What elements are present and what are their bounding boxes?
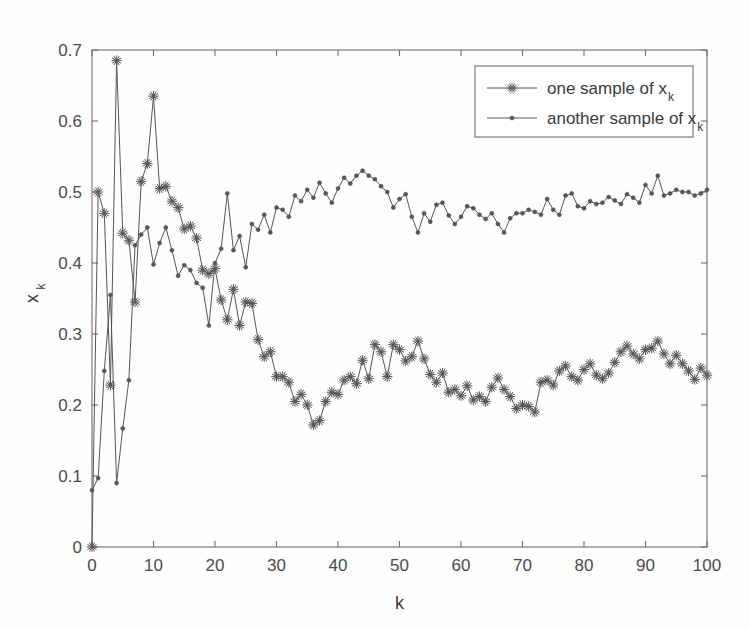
data-point-dot-marker [447,213,451,217]
data-point-star-marker [130,297,140,307]
x-tick-label: 70 [513,556,532,575]
data-point-dot-marker [391,206,395,210]
data-point-dot-marker [625,192,629,196]
data-point-star-marker [487,382,497,392]
data-point-star-marker [493,373,503,383]
data-point-dot-marker [644,183,648,187]
y-axis-title-subscript: k [34,283,48,290]
data-point-star-marker [148,91,158,101]
y-tick-label: 0.7 [58,41,82,60]
x-tick-label: 100 [693,556,721,575]
legend-label: one sample of x [547,79,668,98]
data-point-dot-marker [674,188,678,192]
data-point-dot-marker [465,204,469,208]
data-point-dot-marker [637,201,641,205]
data-point-dot-marker [330,201,334,205]
x-tick-label: 40 [329,556,348,575]
y-tick-label: 0.6 [58,112,82,131]
data-point-dot-marker [293,194,297,198]
data-point-star-marker [111,55,121,65]
series-polyline [92,171,707,491]
x-tick-label: 60 [452,556,471,575]
data-point-dot-marker [213,261,217,265]
data-point-dot-marker [699,191,703,195]
y-axis-title-base: x [22,294,42,303]
data-point-star-marker [93,187,103,197]
data-point-dot-marker [668,191,672,195]
y-axis-title: xk [22,283,48,304]
data-point-star-marker [234,320,244,330]
data-point-dot-marker [96,476,100,480]
data-point-dot-marker [262,213,266,217]
y-tick-label: 0 [73,538,82,557]
data-point-dot-marker [471,206,475,210]
data-point-dot-marker [207,323,211,327]
data-point-star-marker [357,355,367,365]
x-tick-label: 80 [575,556,594,575]
data-point-dot-marker [158,241,162,245]
data-point-dot-marker [379,184,383,188]
data-point-dot-marker [410,215,414,219]
data-point-dot-marker [508,216,512,220]
data-point-dot-marker [152,262,156,266]
data-point-dot-marker [687,190,691,194]
data-point-dot-marker [182,263,186,267]
y-tick-label: 0.4 [58,254,82,273]
data-point-dot-marker [510,116,514,120]
data-point-dot-marker [145,226,149,230]
data-point-star-marker [228,284,238,294]
data-point-dot-marker [176,274,180,278]
data-point-dot-marker [453,222,457,226]
data-point-dot-marker [551,208,555,212]
data-point-dot-marker [231,248,235,252]
data-point-dot-marker [477,213,481,217]
series-2-dot [90,169,709,493]
data-point-star-marker [314,415,324,425]
data-point-dot-marker [422,211,426,215]
x-tick-label: 90 [636,556,655,575]
data-point-dot-marker [256,228,260,232]
data-point-star-marker [382,371,392,381]
x-tick-label: 0 [87,556,96,575]
figure-canvas: 010203040506070809010000.10.20.30.40.50.… [0,0,749,629]
data-point-dot-marker [385,190,389,194]
x-tick-label: 20 [206,556,225,575]
data-point-star-marker [191,233,201,243]
data-point-star-marker [407,352,417,362]
data-point-dot-marker [115,481,119,485]
data-point-dot-marker [318,181,322,185]
legend-layer[interactable]: one sample of xkanother sample of xk [475,66,704,137]
y-tick-label: 0.3 [58,325,82,344]
data-point-dot-marker [564,194,568,198]
y-tick-label: 0.2 [58,396,82,415]
data-point-star-marker [222,315,232,325]
data-point-dot-marker [428,220,432,224]
data-point-dot-marker [570,191,574,195]
data-point-star-marker [302,400,312,410]
data-point-dot-marker [354,174,358,178]
data-point-dot-marker [90,488,94,492]
data-point-dot-marker [484,217,488,221]
data-point-dot-marker [619,202,623,206]
data-point-star-marker [105,380,115,390]
data-point-star-marker [462,381,472,391]
data-point-dot-marker [582,206,586,210]
x-tick-label: 50 [390,556,409,575]
data-point-dot-marker [225,191,229,195]
data-point-dot-marker [434,203,438,207]
data-point-star-marker [419,354,429,364]
data-point-star-marker [437,368,447,378]
data-point-dot-marker [441,201,445,205]
data-point-star-marker [665,359,675,369]
data-point-dot-marker [404,192,408,196]
data-point-dot-marker [108,293,112,297]
data-point-star-marker [690,374,700,384]
data-point-dot-marker [367,174,371,178]
data-point-dot-marker [521,211,525,215]
data-point-dot-marker [650,191,654,195]
data-point-dot-marker [545,197,549,201]
data-point-star-marker [99,208,109,218]
x-tick-label: 30 [267,556,286,575]
data-point-star-marker [185,221,195,231]
data-point-dot-marker [281,208,285,212]
